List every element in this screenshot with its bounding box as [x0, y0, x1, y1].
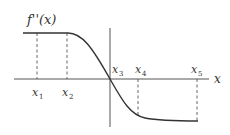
function-label: f''(x) [26, 12, 56, 27]
label-x2: x 2 [62, 86, 73, 101]
label-x1: x 1 [32, 86, 43, 101]
svg-text:x: x [112, 63, 119, 76]
label-x3: x 3 [112, 63, 123, 78]
svg-text:x: x [135, 63, 142, 76]
svg-text:1: 1 [39, 93, 43, 101]
axis-label: x [214, 72, 221, 86]
label-x4: x 4 [135, 63, 147, 78]
svg-text:x: x [32, 86, 39, 99]
svg-text:x: x [62, 86, 69, 99]
svg-text:x: x [191, 63, 198, 76]
f-double-prime-graph: f''(x) x x 1 x 2 x 3 x 4 x 5 [0, 0, 230, 135]
svg-text:4: 4 [142, 70, 147, 78]
svg-text:5: 5 [198, 70, 202, 78]
svg-text:3: 3 [119, 70, 123, 78]
svg-text:2: 2 [69, 93, 73, 101]
label-x5: x 5 [191, 63, 202, 78]
